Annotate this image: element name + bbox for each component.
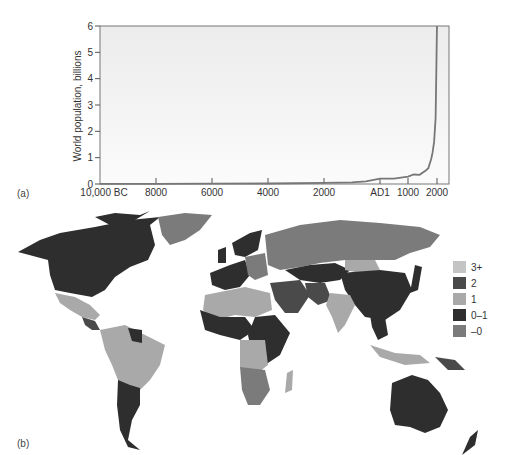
x-tick-label: 6000 — [201, 187, 224, 198]
y-tick-label: 5 — [87, 47, 93, 58]
legend-label: 0–1 — [471, 310, 488, 321]
legend-swatch — [453, 277, 466, 289]
legend-label: 2 — [471, 278, 477, 289]
region-madagascar — [285, 370, 293, 393]
map-legend: 3+ 2 1 0–1 –0 — [453, 259, 488, 339]
legend-swatch — [453, 325, 466, 337]
legend-label: –0 — [471, 326, 482, 337]
legend-swatch — [453, 309, 466, 321]
region-australia — [390, 375, 448, 433]
region-europe-west — [210, 260, 250, 290]
legend-item-2: 2 — [453, 275, 488, 291]
x-tick-label: 2000 — [426, 187, 449, 198]
x-tick-label: 4000 — [257, 187, 280, 198]
legend-label: 3+ — [471, 262, 482, 273]
y-tick-label: 1 — [87, 152, 93, 163]
plot-area — [100, 26, 449, 184]
region-argentina-chile — [117, 380, 140, 450]
legend-label: 1 — [471, 294, 477, 305]
y-axis-label: World population, billions — [72, 51, 83, 162]
region-india — [326, 293, 355, 333]
panel-label-a: (a) — [17, 188, 29, 199]
y-tick-label: 6 — [87, 21, 93, 32]
region-new-zealand — [462, 430, 478, 455]
region-japan — [410, 265, 422, 293]
region-north-america — [18, 217, 160, 297]
world-map — [0, 205, 506, 455]
legend-item-3plus: 3+ — [453, 259, 488, 275]
region-southern-africa — [240, 367, 270, 405]
legend-swatch — [453, 293, 466, 305]
region-new-guinea — [435, 357, 465, 370]
y-axis: 0123456 — [87, 21, 100, 190]
population-chart: 0123456 10,000 BC8000600040002000AD11000… — [0, 0, 506, 205]
legend-swatch — [453, 261, 466, 273]
x-tick-label: 1000 — [397, 187, 420, 198]
x-tick-label: 2000 — [313, 187, 336, 198]
panel-label-b: (b) — [17, 438, 29, 449]
legend-item-1: 1 — [453, 291, 488, 307]
region-mexico — [55, 293, 100, 320]
legend-item-neg0: –0 — [453, 323, 488, 339]
y-tick-label: 3 — [87, 100, 93, 111]
region-middle-east — [270, 280, 310, 313]
legend-item-0-1: 0–1 — [453, 307, 488, 323]
y-tick-label: 4 — [87, 73, 93, 84]
x-tick-label: 8000 — [145, 187, 168, 198]
region-scandinavia — [232, 230, 262, 257]
x-tick-label: AD1 — [370, 187, 390, 198]
region-greenland — [158, 213, 212, 245]
region-indonesia — [370, 345, 430, 365]
y-tick-label: 2 — [87, 126, 93, 137]
region-uk — [218, 247, 226, 263]
x-tick-label: 10,000 BC — [80, 187, 127, 198]
